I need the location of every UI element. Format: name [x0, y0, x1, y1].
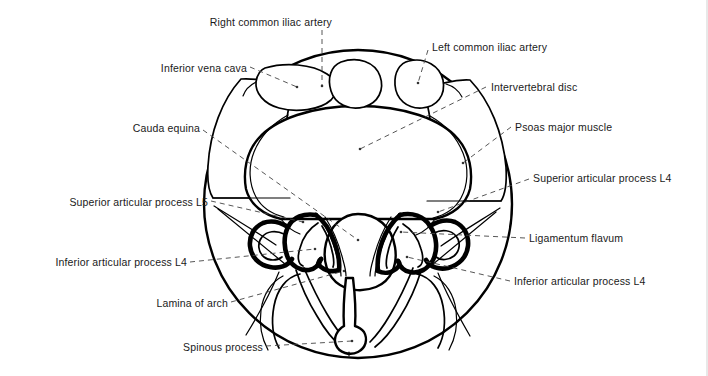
left-common-iliac-artery-vessel [395, 60, 444, 108]
label-psoas-major-muscle: Psoas major muscle [515, 121, 612, 134]
label-lamina-of-arch: Lamina of arch [0, 297, 228, 310]
label-intervertebral-disc: Intervertebral disc [491, 81, 577, 94]
lumbar-cross-section-figure: .ln { fill:none; stroke:#000; stroke-wid… [0, 0, 708, 376]
label-ligamentum-flavum: Ligamentum flavum [529, 232, 623, 245]
label-spinous-process: Spinous process [0, 341, 263, 354]
label-superior-articular-process-l5: Superior articular process L5 [0, 196, 208, 209]
label-right-common-iliac-artery: Right common iliac artery [0, 16, 332, 29]
label-left-common-iliac-artery: Left common iliac artery [432, 41, 547, 54]
label-cauda-equina: Cauda equina [0, 122, 200, 135]
anatomical-diagram-canvas: .ln { fill:none; stroke:#000; stroke-wid… [0, 0, 708, 376]
label-inferior-vena-cava: Inferior vena cava [0, 62, 247, 75]
vertebral-body-disc [245, 106, 471, 219]
label-inferior-articular-process-l4-right: Inferior articular process L4 [514, 275, 646, 288]
right-common-iliac-artery-vessel [329, 60, 381, 108]
label-inferior-articular-process-l4-left: Inferior articular process L4 [0, 256, 187, 269]
label-superior-articular-process-l4: Superior articular process L4 [533, 172, 672, 185]
